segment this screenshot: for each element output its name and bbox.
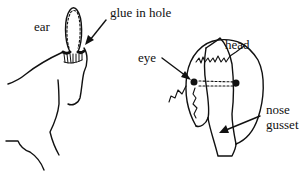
head-drawing [169,38,263,156]
left-eye-dot [191,79,198,86]
toy-assembly-diagram: ear glue in hole eye head nose gusset [0,0,304,175]
label-ear: ear [34,20,50,33]
right-eye-dot [233,80,240,87]
eye-arrow [162,58,191,80]
label-gusset: gusset [266,118,299,131]
nose-gusset-arrow [219,116,260,133]
label-eye: eye [138,51,156,64]
label-nose: nose [266,103,290,116]
label-head: head [225,38,250,51]
glue-arrow [85,20,106,45]
label-glue-in-hole: glue in hole [110,6,171,19]
